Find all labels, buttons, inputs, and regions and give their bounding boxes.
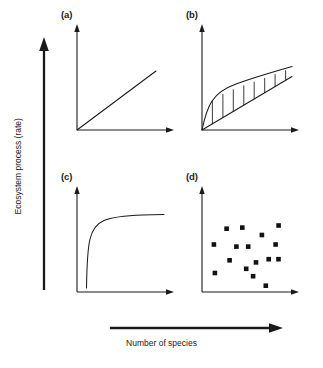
panel-label-c: (c)	[61, 172, 72, 182]
panel-c-saturating-curve	[87, 215, 165, 288]
panel-a-linear-line	[77, 71, 156, 130]
panel-b	[199, 24, 299, 133]
panel-d-x-axis	[202, 289, 299, 294]
scatter-point	[246, 244, 251, 249]
panel-b-x-axis	[202, 127, 299, 132]
scatter-point	[260, 233, 265, 238]
scatter-point	[264, 283, 269, 288]
scatter-point	[212, 242, 217, 247]
panel-b-y-axis	[199, 24, 204, 130]
panel-d-y-axis	[199, 186, 204, 292]
scatter-point	[224, 226, 229, 231]
panel-d-scatter-markers	[212, 223, 281, 288]
scatter-point	[251, 274, 256, 279]
figure-root: (a) (b) (c) (d) Ecosystem process (rate)…	[0, 0, 323, 368]
main-y-axis	[39, 37, 49, 290]
scatter-point	[244, 267, 249, 272]
panel-c-x-axis	[77, 289, 174, 294]
scatter-point	[273, 242, 278, 247]
scatter-point	[240, 225, 245, 230]
panel-b-lower-bound	[202, 77, 292, 131]
panel-d	[199, 186, 299, 295]
main-x-axis	[110, 323, 283, 333]
scatter-point	[227, 258, 232, 263]
scatter-point	[254, 260, 259, 265]
scatter-point	[213, 271, 218, 276]
y-axis-title: Ecosystem process (rate)	[14, 91, 23, 241]
panel-c-y-axis	[74, 186, 79, 292]
scatter-point	[234, 244, 239, 249]
panel-a-x-axis	[77, 127, 174, 132]
panel-b-hatching	[212, 70, 285, 124]
figure-caption-clipped	[0, 360, 323, 368]
scatter-point	[266, 257, 271, 262]
panel-b-upper-bound	[202, 67, 292, 131]
panel-a-y-axis	[74, 24, 79, 130]
panel-a	[74, 24, 174, 133]
figure-canvas	[0, 0, 323, 368]
panel-c	[74, 186, 174, 295]
scatter-point	[276, 223, 281, 228]
panel-label-b: (b)	[186, 10, 198, 20]
panel-label-a: (a)	[61, 10, 72, 20]
panel-label-d: (d)	[186, 172, 198, 182]
scatter-point	[276, 257, 281, 262]
x-axis-title: Number of species	[0, 339, 323, 348]
